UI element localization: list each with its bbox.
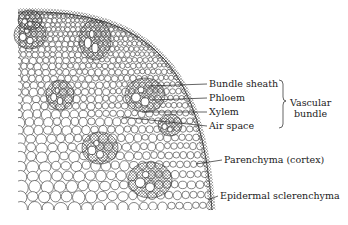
vascular-bundle — [46, 80, 74, 110]
label-bundle-sheath: Bundle sheath — [209, 78, 278, 89]
label-epidermal-sclerenchyma: Epidermal sclerenchyma — [220, 190, 340, 201]
vascular-label-line1: Vascular — [290, 97, 331, 108]
vascular-bundle — [125, 78, 165, 112]
label-xylem: Xylem — [209, 106, 239, 117]
vascular-bundle — [18, 10, 42, 30]
label-air-space: Air space — [209, 120, 254, 131]
vascular-bundle — [128, 162, 172, 198]
vascular-bundle — [158, 114, 182, 136]
vascular-label-line2: bundle — [290, 108, 331, 119]
label-phloem: Phloem — [209, 92, 245, 103]
vascular-bundle-bracket — [279, 80, 286, 128]
vascular-bundle-label: Vascular bundle — [290, 97, 331, 119]
label-parenchyma: Parenchyma (cortex) — [224, 154, 324, 165]
vascular-bundle — [82, 132, 118, 164]
diagram-stage: Bundle sheathPhloemXylemAir spaceParench… — [0, 0, 348, 225]
vascular-bundle — [79, 20, 111, 60]
